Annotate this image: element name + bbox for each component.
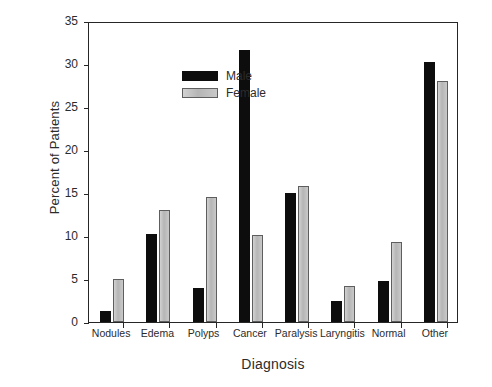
bar-paralysis-female	[298, 186, 309, 322]
bar-paralysis-male	[285, 193, 296, 322]
y-tick-mark	[84, 151, 89, 152]
bar-normal-female	[391, 242, 402, 322]
x-axis-title: Diagnosis	[88, 356, 458, 372]
bar-polyps-male	[193, 288, 204, 322]
y-tick-mark	[84, 280, 89, 281]
bar-nodules-female	[113, 279, 124, 322]
y-tick-label: 20	[38, 143, 78, 157]
y-tick-mark	[84, 108, 89, 109]
y-axis-title: Percent of Patients	[47, 58, 62, 258]
bar-edema-male	[146, 234, 157, 322]
y-tick-mark	[84, 323, 89, 324]
bar-laryngitis-male	[331, 301, 342, 323]
y-tick-label: 15	[38, 186, 78, 200]
y-tick-label: 10	[38, 229, 78, 243]
x-category-label-other: Other	[395, 327, 475, 339]
bar-normal-male	[378, 281, 389, 322]
y-tick-label: 35	[38, 14, 78, 28]
y-tick-mark	[84, 22, 89, 23]
bar-other-male	[424, 62, 435, 322]
bar-chart-figure: Percent of Patients 05101520253035 Male …	[0, 0, 492, 387]
y-tick-label: 30	[38, 57, 78, 71]
legend-item-female: Female	[182, 85, 266, 100]
bar-polyps-female	[206, 197, 217, 322]
chart-legend: Male Female	[182, 68, 266, 102]
y-tick-mark	[84, 65, 89, 66]
bar-laryngitis-female	[344, 286, 355, 322]
legend-item-male: Male	[182, 68, 266, 83]
bar-edema-female	[159, 210, 170, 322]
bar-nodules-male	[100, 311, 111, 322]
bar-cancer-female	[252, 235, 263, 322]
y-tick-mark	[84, 194, 89, 195]
legend-swatch-male-icon	[182, 71, 218, 81]
y-tick-label: 5	[38, 272, 78, 286]
legend-label-female: Female	[226, 87, 266, 99]
plot-area: 05101520253035 Male Female	[88, 22, 458, 323]
y-tick-label: 25	[38, 100, 78, 114]
y-tick-mark	[84, 237, 89, 238]
bar-other-female	[437, 81, 448, 322]
legend-swatch-female-icon	[182, 88, 218, 98]
legend-label-male: Male	[226, 70, 252, 82]
